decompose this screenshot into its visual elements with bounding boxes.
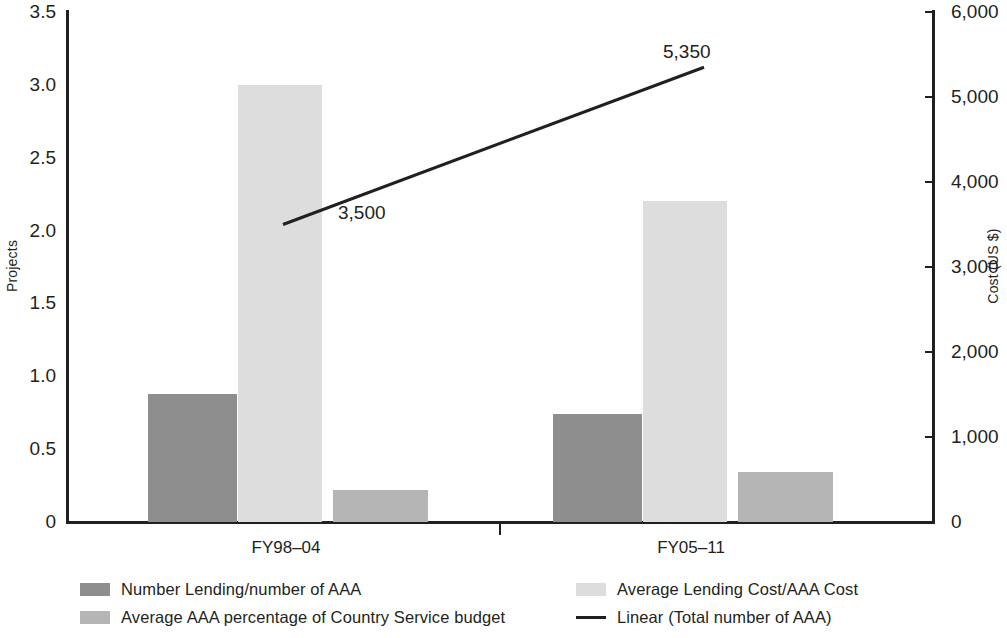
trendline-start-label: 3,500 (338, 202, 386, 224)
legend-item-number-lending: Number Lending/number of AAA (80, 580, 361, 599)
legend-item-average-lending-cost: Average Lending Cost/AAA Cost (576, 580, 858, 599)
y-axis-right-tick-mark (925, 521, 934, 523)
trendline-segment (283, 67, 704, 224)
chart-legend: Number Lending/number of AAA Average AAA… (0, 578, 1007, 638)
legend-label: Linear (Total number of AAA) (617, 608, 832, 627)
y-axis-right-tick-mark (925, 351, 934, 353)
legend-swatch-icon (576, 583, 606, 596)
y-axis-right-tick-mark (925, 436, 934, 438)
y-axis-left-tick-label: 1.0 (8, 366, 56, 385)
y-axis-right-tick-label: 0 (951, 512, 962, 531)
legend-label: Average AAA percentage of Country Servic… (121, 608, 505, 627)
trendline (66, 12, 934, 522)
legend-swatch-icon (80, 611, 110, 624)
x-axis-category-label-0: FY98–04 (206, 538, 366, 558)
y-axis-left-tick-label: 3.5 (8, 2, 56, 21)
trendline-end-label: 5,350 (663, 41, 711, 63)
y-axis-right-tick-mark (925, 11, 934, 13)
y-axis-right-tick-label: 5,000 (951, 87, 999, 106)
legend-line-icon (576, 616, 606, 619)
legend-swatch-icon (80, 583, 110, 596)
x-axis-center-tick (499, 524, 501, 535)
y-axis-left-tick-label: 0.5 (8, 439, 56, 458)
y-axis-left-tick-label: 2.5 (8, 148, 56, 167)
y-axis-right-tick-label: 4,000 (951, 172, 999, 191)
y-axis-right-tick-label: 2,000 (951, 342, 999, 361)
y-axis-left-tick-label: 0 (8, 512, 56, 531)
y-axis-left-tick-label: 3.0 (8, 75, 56, 94)
y-axis-right-tick-label: 3,000 (951, 257, 999, 276)
x-axis-category-label-1: FY05–11 (611, 538, 771, 558)
legend-item-linear-trend: Linear (Total number of AAA) (576, 608, 832, 627)
legend-label: Number Lending/number of AAA (121, 580, 361, 599)
legend-item-average-aaa-percentage: Average AAA percentage of Country Servic… (80, 608, 505, 627)
chart-container: Projects Cost (US $) 00.51.01.52.02.53.0… (0, 0, 1007, 638)
legend-label: Average Lending Cost/AAA Cost (617, 580, 858, 599)
y-axis-right-tick-mark (925, 96, 934, 98)
y-axis-left-tick-label: 2.0 (8, 221, 56, 240)
y-axis-right-ticks: 01,0002,0003,0004,0005,0006,000 (937, 0, 1007, 638)
y-axis-right-tick-label: 6,000 (951, 2, 999, 21)
y-axis-left-ticks: 00.51.01.52.02.53.03.5 (0, 0, 56, 638)
y-axis-left-tick-label: 1.5 (8, 293, 56, 312)
y-axis-right-tick-mark (925, 181, 934, 183)
y-axis-right-tick-mark (925, 266, 934, 268)
y-axis-right-tick-label: 1,000 (951, 427, 999, 446)
